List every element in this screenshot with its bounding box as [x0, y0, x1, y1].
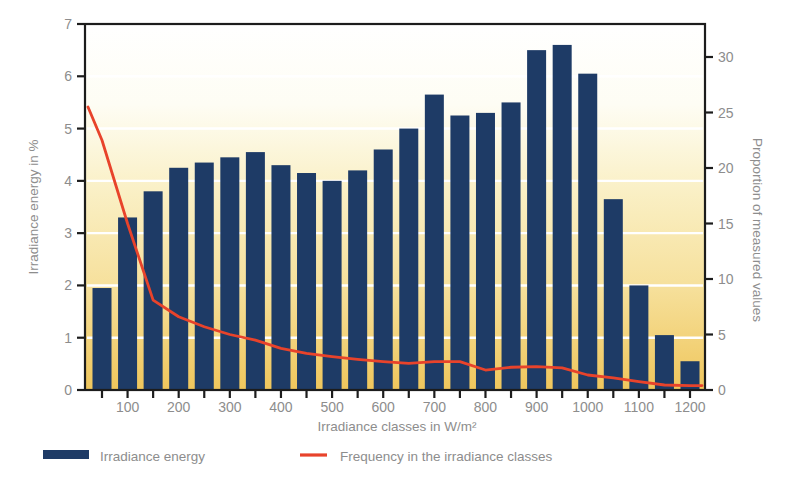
left-tick-label: 7	[64, 16, 72, 32]
legend-line-label: Frequency in the irradiance classes	[340, 449, 553, 464]
right-tick-label: 15	[718, 216, 734, 232]
bar-550	[348, 170, 367, 389]
legend-bar-swatch	[43, 450, 89, 459]
bar-600	[374, 149, 393, 389]
right-tick-label: 10	[718, 271, 734, 287]
legend-bar-label: Irradiance energy	[100, 449, 205, 464]
x-tick-label-700: 700	[423, 399, 447, 415]
bar-300	[220, 157, 239, 389]
x-tick-label-500: 500	[320, 399, 344, 415]
x-tick-label-900: 900	[525, 399, 549, 415]
figure-irradiance-chart: 0123456705101520253010020030040050060070…	[0, 0, 801, 493]
x-tick-label-1200: 1200	[674, 399, 705, 415]
left-tick-label: 0	[64, 382, 72, 398]
left-tick-label: 1	[64, 330, 72, 346]
right-tick-label: 30	[718, 49, 734, 65]
bar-150	[144, 191, 163, 389]
bar-900	[527, 50, 546, 389]
x-tick-label-200: 200	[167, 399, 191, 415]
left-tick-label: 5	[64, 121, 72, 137]
left-axis-title: Irradiance energy in %	[26, 139, 41, 274]
legend: Irradiance energy Frequency in the irrad…	[43, 449, 553, 464]
bar-1050	[604, 199, 623, 389]
bar-50	[93, 288, 112, 389]
x-tick-label-100: 100	[116, 399, 140, 415]
bar-800	[476, 113, 495, 389]
x-tick-label-800: 800	[474, 399, 498, 415]
bar-250	[195, 163, 214, 389]
right-tick-label: 20	[718, 160, 734, 176]
x-tick-label-300: 300	[218, 399, 242, 415]
x-tick-label-1000: 1000	[572, 399, 603, 415]
left-tick-label: 6	[64, 68, 72, 84]
bar-1150	[655, 335, 674, 389]
bar-700	[425, 95, 444, 389]
x-axis-title: Irradiance classes in W/m²	[317, 419, 477, 434]
left-tick-label: 3	[64, 225, 72, 241]
bar-200	[169, 168, 188, 389]
x-tick-label-1100: 1100	[624, 399, 654, 415]
bar-650	[399, 129, 418, 389]
x-tick-label-600: 600	[372, 399, 396, 415]
bar-850	[502, 102, 521, 389]
bar-350	[246, 152, 265, 389]
bar-1000	[578, 74, 597, 389]
bar-400	[271, 165, 290, 389]
right-tick-label: 25	[718, 105, 734, 121]
right-tick-label: 0	[718, 382, 726, 398]
chart-canvas: 0123456705101520253010020030040050060070…	[0, 0, 801, 493]
x-tick-label-400: 400	[269, 399, 293, 415]
left-tick-label: 2	[64, 277, 72, 293]
bar-750	[450, 116, 469, 390]
left-tick-label: 4	[64, 173, 72, 189]
bar-450	[297, 173, 316, 389]
bar-950	[553, 45, 572, 389]
right-tick-label: 5	[718, 327, 726, 343]
right-axis-title: Proportion of measured values	[750, 138, 765, 322]
bar-1100	[629, 285, 648, 389]
